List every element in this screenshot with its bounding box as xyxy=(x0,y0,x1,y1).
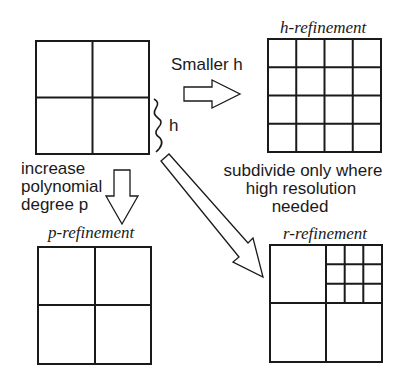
r-refinement-label: r-refinement xyxy=(283,224,368,243)
p-arrow-label-line-1: increase xyxy=(21,159,85,178)
original-mesh xyxy=(36,41,149,154)
h-refinement-mesh xyxy=(268,39,381,152)
h-refinement-label: h-refinement xyxy=(280,18,368,37)
p-refinement-mesh xyxy=(38,247,151,364)
r-arrow-label-line-3: needed xyxy=(272,197,329,216)
r-arrow-label-line-1: subdivide only where xyxy=(224,161,383,180)
p-arrow-label-line-3: degree p xyxy=(21,195,88,214)
right-arrow-icon xyxy=(184,80,240,108)
p-refinement-label: p-refinement xyxy=(47,223,136,242)
r-refinement-mesh xyxy=(270,245,382,362)
size-label: h xyxy=(169,116,178,135)
h-arrow-label: Smaller h xyxy=(171,55,243,74)
refinement-diagram: h Smaller h h-refinement increase polyno… xyxy=(0,0,402,378)
p-arrow-label-line-2: polynomial xyxy=(21,177,102,196)
size-brace-icon xyxy=(154,99,162,152)
down-arrow-icon xyxy=(106,170,138,224)
r-arrow-label-line-2: high resolution xyxy=(246,179,357,198)
